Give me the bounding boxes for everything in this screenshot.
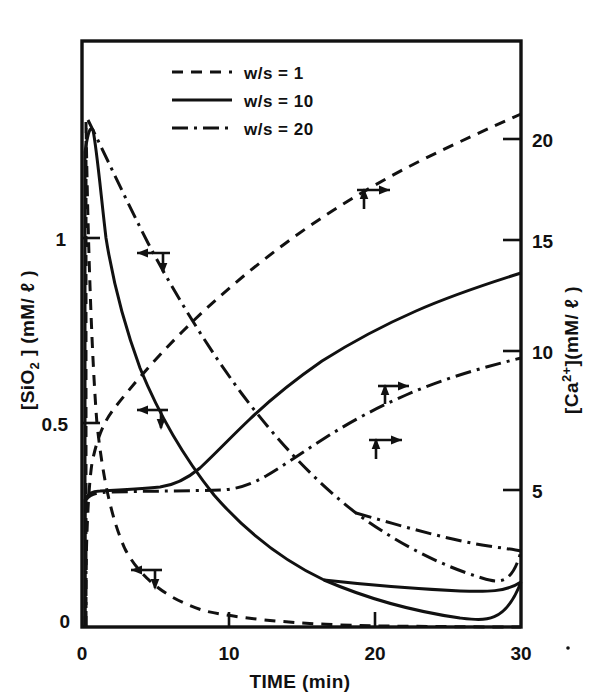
- axis-marker-right-ws20: [369, 436, 402, 460]
- y-right-label-sup: 2+: [559, 366, 574, 382]
- curve-sio2-ws20-tail: [356, 513, 521, 551]
- legend-label-ws-10: w/s = 10: [243, 92, 314, 111]
- y-right-label-close: ): [561, 286, 582, 298]
- x-axis-label: TIME (min): [249, 671, 350, 692]
- legend: w/s = 1 w/s = 10 w/s = 20: [172, 64, 314, 139]
- curve-ca-ws1: [85, 114, 521, 627]
- y-right-label-litre: ℓ: [561, 298, 582, 308]
- x-tick-20: 20: [364, 643, 385, 664]
- y-right-ticks: [503, 139, 521, 490]
- figure-container: 1 0.5 0 20 15 10 5 0 10 20 30 TIME (min)…: [0, 0, 601, 695]
- y-left-label-suffix: ] (mM/: [17, 292, 38, 362]
- scan-speck: [566, 646, 570, 650]
- y-right-tick-10: 10: [532, 342, 553, 363]
- y-right-label-prefix: [Ca: [561, 382, 582, 414]
- legend-item-ws-10: w/s = 10: [172, 92, 314, 111]
- y-right-tick-5: 5: [532, 481, 543, 502]
- legend-label-ws-1: w/s = 1: [243, 64, 304, 83]
- curve-ca-ws20: [86, 358, 521, 627]
- curve-sio2-ws20: [88, 120, 521, 581]
- y-left-label-sub: 2: [27, 362, 42, 370]
- legend-item-ws-1: w/s = 1: [172, 64, 304, 83]
- y-left-label-prefix: [SiO: [17, 369, 38, 410]
- svg-text:[SiO2 ] (mM/ ℓ ): [SiO2 ] (mM/ ℓ ): [17, 270, 42, 410]
- curve-ca-ws10: [85, 273, 521, 627]
- y-left-label-litre: ℓ: [17, 282, 38, 292]
- y-right-tick-15: 15: [532, 231, 554, 252]
- legend-item-ws-20: w/s = 20: [172, 120, 314, 139]
- y-right-axis-label: [Ca2+](mM/ ℓ ): [559, 286, 582, 414]
- axis-marker-left-ws20: [137, 249, 170, 275]
- chart-svg: 1 0.5 0 20 15 10 5 0 10 20 30 TIME (min)…: [0, 0, 601, 695]
- axis-marker-right-ws10: [378, 382, 409, 405]
- y-left-tick-0: 0: [59, 611, 70, 632]
- legend-label-ws-20: w/s = 20: [243, 120, 314, 139]
- y-left-axis-label: [SiO2 ] (mM/ ℓ ): [17, 270, 42, 410]
- x-tick-0: 0: [77, 643, 88, 664]
- x-tick-10: 10: [218, 643, 239, 664]
- curve-sio2-ws10: [85, 129, 521, 627]
- axis-marker-right-ws1: [357, 186, 390, 210]
- y-left-tick-0_5: 0.5: [42, 414, 69, 435]
- y-right-label-suffix: ](mM/: [561, 308, 582, 366]
- y-right-tick-20: 20: [532, 130, 553, 151]
- x-tick-30: 30: [510, 643, 531, 664]
- y-left-label-close: ): [17, 270, 38, 282]
- svg-text:[Ca2+](mM/ ℓ ): [Ca2+](mM/ ℓ ): [559, 286, 582, 414]
- y-left-tick-1: 1: [55, 229, 66, 250]
